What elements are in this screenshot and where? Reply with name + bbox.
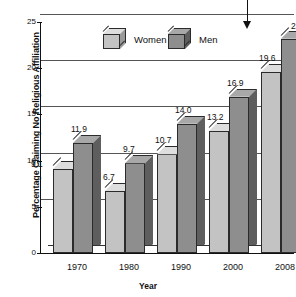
bar-men-1980: [125, 163, 145, 253]
x-axis-title: Year: [0, 281, 296, 291]
bar-women-1980: [105, 191, 125, 253]
bar-value-label-women-1970: 9.1: [31, 159, 43, 169]
bar-value-label-men-2000: 16.9: [227, 78, 244, 88]
bar-men-2000: [229, 97, 249, 253]
bar-top-back-edge: [289, 31, 296, 32]
bar-side-face: [249, 89, 257, 245]
legend-cube-front: [103, 34, 120, 49]
bar-women-2008: [261, 72, 281, 253]
gridline: [40, 60, 294, 61]
bar-value-label-men-1990: 14.0: [175, 105, 192, 115]
y-axis-tick-label: 25: [14, 17, 36, 26]
bar-men-1990: [177, 124, 197, 253]
bar-front-face: [157, 154, 177, 253]
y-axis-tick-label: 0: [14, 248, 36, 257]
bar-value-label-women-1980: 6.7: [103, 172, 115, 182]
y-axis-tick-label: 20: [14, 63, 36, 72]
cube-dark-icon: [168, 28, 191, 49]
bar-value-label-men-1980: 9.7: [123, 144, 135, 154]
bar-men-2008: [281, 39, 296, 253]
annotation-arrow-shaft: [247, 0, 248, 22]
bar-value-label-women-2000: 13.2: [207, 112, 224, 122]
legend-cube-back-edge: [174, 28, 191, 29]
bar-front-face: [53, 169, 73, 253]
bar-front-face: [105, 191, 125, 253]
x-axis-label-2000: 2000: [205, 262, 261, 272]
bar-value-label-women-2008: 19.6: [259, 53, 276, 63]
x-axis-label-2008: 2008: [257, 262, 296, 272]
annotation-arrow-icon: [243, 21, 251, 29]
bar-front-face: [261, 72, 281, 253]
legend-cube-back-edge: [109, 28, 126, 29]
y-axis-tick-label: 5: [14, 202, 36, 211]
gridline: [40, 14, 294, 15]
bar-front-face: [73, 143, 93, 253]
x-axis-label-1970: 1970: [49, 262, 105, 272]
bar-top-back-edge: [237, 89, 257, 90]
bar-front-face: [209, 131, 229, 253]
bar-value-label-men-1970: 11.9: [71, 124, 87, 134]
bar-women-1990: [157, 154, 177, 253]
bar-top-back-edge: [185, 116, 205, 117]
legend-label-men: Men: [199, 34, 217, 45]
bar-top-back-edge: [81, 135, 101, 136]
bar-chart: Percentage Claiming No Religious Affilia…: [0, 0, 296, 297]
legend-cube-front: [168, 34, 185, 49]
cube-light-icon: [103, 28, 126, 49]
bar-men-1970: [73, 143, 93, 253]
bar-top-back-edge: [133, 155, 153, 156]
bar-value-label-men-2008: 23.2: [291, 21, 296, 31]
x-axis-line: [40, 253, 294, 254]
bar-front-face: [125, 163, 145, 253]
bar-front-face: [177, 124, 197, 253]
bar-women-1970: [53, 169, 73, 253]
bar-front-face: [229, 97, 249, 253]
bar-value-label-women-1990: 10.7: [155, 135, 172, 145]
bar-women-2000: [209, 131, 229, 253]
legend-label-women: Women: [134, 34, 167, 45]
bar-front-face: [281, 39, 296, 253]
x-axis-label-1990: 1990: [153, 262, 209, 272]
bar-side-face: [145, 155, 153, 245]
x-axis-label-1980: 1980: [101, 262, 157, 272]
bar-side-face: [93, 135, 101, 245]
y-axis-tick-label: 15: [14, 109, 36, 118]
bar-side-face: [197, 116, 205, 245]
y-axis-line: [40, 22, 41, 254]
